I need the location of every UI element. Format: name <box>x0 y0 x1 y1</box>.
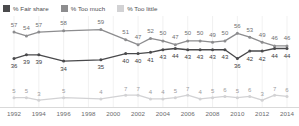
data-point-label: 34 <box>60 65 67 72</box>
data-point-marker[interactable] <box>161 48 164 51</box>
data-point-label: 7 <box>186 85 189 92</box>
data-point-marker[interactable] <box>261 41 264 44</box>
data-point-label: 35 <box>98 64 105 71</box>
data-point-marker[interactable] <box>99 97 102 100</box>
x-axis-tick-label: 1996 <box>57 110 71 118</box>
data-point-label: 47 <box>135 34 142 41</box>
data-point-label: 50 <box>197 30 204 37</box>
data-point-marker[interactable] <box>223 95 226 98</box>
data-point-marker[interactable] <box>261 99 264 102</box>
data-point-marker[interactable] <box>25 34 28 37</box>
data-point-marker[interactable] <box>248 36 251 39</box>
legend-swatch-too-little <box>117 5 124 12</box>
data-point-marker[interactable] <box>13 57 16 60</box>
data-point-marker[interactable] <box>99 28 102 31</box>
data-point-marker[interactable] <box>248 50 251 53</box>
legend-item-too-much[interactable]: % Too much <box>61 5 105 12</box>
data-point-label: 43 <box>209 54 216 61</box>
data-point-label: 5 <box>174 88 177 95</box>
data-point-marker[interactable] <box>37 53 40 56</box>
data-point-marker[interactable] <box>25 53 28 56</box>
data-point-marker[interactable] <box>273 47 276 50</box>
data-point-marker[interactable] <box>286 47 289 50</box>
data-point-label: 42 <box>259 55 266 62</box>
data-point-marker[interactable] <box>211 41 214 44</box>
data-point-marker[interactable] <box>62 29 65 32</box>
data-point-label: 3 <box>37 90 40 97</box>
data-point-label: 5 <box>236 88 239 95</box>
data-point-marker[interactable] <box>62 60 65 63</box>
data-point-label: 57 <box>35 21 42 28</box>
data-point-marker[interactable] <box>161 39 164 42</box>
data-point-label: 4 <box>198 89 201 96</box>
data-point-marker[interactable] <box>124 52 127 55</box>
data-point-label: 7 <box>124 85 127 92</box>
data-point-marker[interactable] <box>13 31 16 34</box>
data-point-label: 57 <box>11 21 18 28</box>
legend-item-too-little[interactable]: % Too little <box>117 5 157 12</box>
data-point-marker[interactable] <box>223 48 226 51</box>
legend-label-too-little: % Too little <box>127 5 157 12</box>
x-axis-tick-label: 1998 <box>81 110 95 118</box>
data-point-marker[interactable] <box>186 48 189 51</box>
data-point-marker[interactable] <box>149 51 152 54</box>
data-point-label: 51 <box>122 29 129 36</box>
data-point-label: 43 <box>197 54 204 61</box>
data-point-marker[interactable] <box>99 58 102 61</box>
data-point-label: 5 <box>62 88 65 95</box>
data-point-marker[interactable] <box>149 97 152 100</box>
data-point-marker[interactable] <box>261 50 264 53</box>
data-point-marker[interactable] <box>236 57 239 60</box>
data-point-label: 54 <box>23 25 30 32</box>
data-point-marker[interactable] <box>62 96 65 99</box>
data-point-label: 6 <box>223 86 226 93</box>
data-point-marker[interactable] <box>286 95 289 98</box>
data-point-marker[interactable] <box>236 32 239 35</box>
data-point-marker[interactable] <box>37 99 40 102</box>
legend-item-fair-share[interactable]: % Fair share <box>3 5 49 12</box>
data-point-label: 49 <box>259 31 266 38</box>
data-point-marker[interactable] <box>248 95 251 98</box>
data-point-marker[interactable] <box>199 97 202 100</box>
data-point-label: 43 <box>222 54 229 61</box>
data-point-marker[interactable] <box>149 37 152 40</box>
data-point-label: 5 <box>12 88 15 95</box>
data-point-marker[interactable] <box>211 48 214 51</box>
data-point-label: 59 <box>98 19 105 26</box>
data-point-marker[interactable] <box>236 96 239 99</box>
legend-swatch-too-much <box>61 5 68 12</box>
data-point-marker[interactable] <box>186 39 189 42</box>
x-axis-tick-label: 2002 <box>131 110 145 118</box>
data-point-marker[interactable] <box>161 97 164 100</box>
data-point-marker[interactable] <box>13 96 16 99</box>
data-point-label: 7 <box>136 85 139 92</box>
data-point-marker[interactable] <box>174 96 177 99</box>
chart-container: % Fair share % Too much % Too little 575… <box>0 0 299 126</box>
data-point-label: 47 <box>172 34 179 41</box>
data-point-marker[interactable] <box>199 39 202 42</box>
data-point-marker[interactable] <box>137 94 140 97</box>
data-point-marker[interactable] <box>124 94 127 97</box>
data-point-marker[interactable] <box>211 96 214 99</box>
data-point-label: 44 <box>284 52 291 59</box>
data-point-marker[interactable] <box>186 94 189 97</box>
data-point-marker[interactable] <box>37 31 40 34</box>
data-point-label: 36 <box>234 63 241 70</box>
data-point-marker[interactable] <box>273 94 276 97</box>
data-point-marker[interactable] <box>174 47 177 50</box>
data-point-marker[interactable] <box>25 96 28 99</box>
x-axis-tick-label: 2006 <box>181 110 195 118</box>
x-axis-tick-label: 2008 <box>205 110 219 118</box>
plot-area: 5754575859514752504750504950565349464636… <box>0 16 299 108</box>
data-point-label: 6 <box>248 86 251 93</box>
data-point-label: 3 <box>261 90 264 97</box>
data-point-marker[interactable] <box>174 43 177 46</box>
data-point-marker[interactable] <box>124 38 127 41</box>
data-point-marker[interactable] <box>199 48 202 51</box>
data-point-label: 46 <box>284 35 291 42</box>
x-axis: 1992199419961998200020022004200620082010… <box>0 110 299 124</box>
data-point-marker[interactable] <box>137 43 140 46</box>
data-point-marker[interactable] <box>137 52 140 55</box>
data-point-marker[interactable] <box>223 39 226 42</box>
chart-legend: % Fair share % Too much % Too little <box>3 3 170 14</box>
